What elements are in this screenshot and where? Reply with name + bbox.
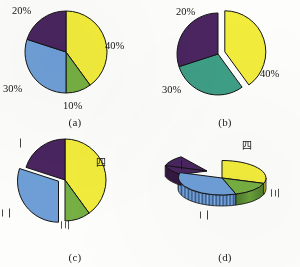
pie-label-b-20: 20% [176, 7, 195, 18]
pie-label-c-two: 二 [2, 208, 12, 218]
pie-label-a-20: 20% [12, 6, 31, 17]
pie-label-c-four: 四 [96, 158, 106, 168]
pie-label-a-40: 40% [105, 41, 124, 52]
pie-slice-c-two [18, 169, 59, 223]
pie-label-a-30: 30% [3, 84, 22, 95]
pie-label-a-10: 10% [63, 101, 82, 112]
chart-panel-d: 一 二 三 四 (d) [150, 130, 300, 267]
panel-caption-b: (b) [150, 116, 300, 128]
pie-label-b-40: 40% [260, 69, 279, 80]
panel-caption-d: (d) [150, 251, 300, 263]
pie-label-d-one: 一 [178, 160, 188, 170]
pie-label-c-one: 一 [17, 138, 27, 148]
pie-label-d-two: 二 [200, 210, 210, 220]
chart-panel-c: 一 二 三 四 (c) [0, 130, 150, 267]
panel-caption-a: (a) [0, 116, 150, 128]
pie-label-c-three: 三 [61, 220, 71, 230]
chart-panel-a: 40% 30% 20% 10% (a) [0, 0, 150, 135]
pie-label-d-four: 四 [242, 141, 252, 151]
panel-caption-c: (c) [0, 251, 150, 263]
pie-chart-a [0, 0, 150, 110]
pie-label-d-three: 三 [271, 188, 281, 198]
chart-panel-b: 40% 30% 20% (b) [150, 0, 300, 135]
pie-label-b-30: 30% [162, 85, 181, 96]
pie-chart-d [150, 130, 300, 242]
figure-grid: 40% 30% 20% 10% (a) 40% 30% 20% (b) [0, 0, 300, 267]
